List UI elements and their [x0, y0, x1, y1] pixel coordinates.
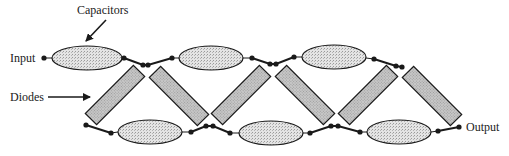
diode-1 [85, 65, 144, 124]
capacitor-bottom-1 [118, 120, 182, 144]
capacitor-top-1 [52, 46, 122, 70]
diode-3 [211, 65, 270, 124]
diode-6 [402, 66, 461, 125]
voltage-multiplier-diagram: Capacitors Diodes Input Output [0, 0, 509, 156]
capacitors-arrow-icon [86, 20, 106, 41]
capacitor-bottom-3 [367, 120, 431, 144]
diode-4 [275, 65, 334, 124]
capacitor-bottom-2 [239, 121, 303, 145]
capacitor-top-3 [302, 45, 366, 69]
diodes-label: Diodes [10, 90, 44, 104]
diode-5 [338, 65, 397, 124]
capacitor-top-2 [179, 46, 243, 70]
output-terminal-dot [456, 124, 461, 129]
diodes [85, 65, 461, 125]
diode-2 [149, 66, 208, 125]
input-terminal-dot [41, 55, 46, 60]
output-label: Output [466, 120, 500, 134]
capacitors-label: Capacitors [77, 3, 129, 17]
input-label: Input [10, 51, 36, 65]
